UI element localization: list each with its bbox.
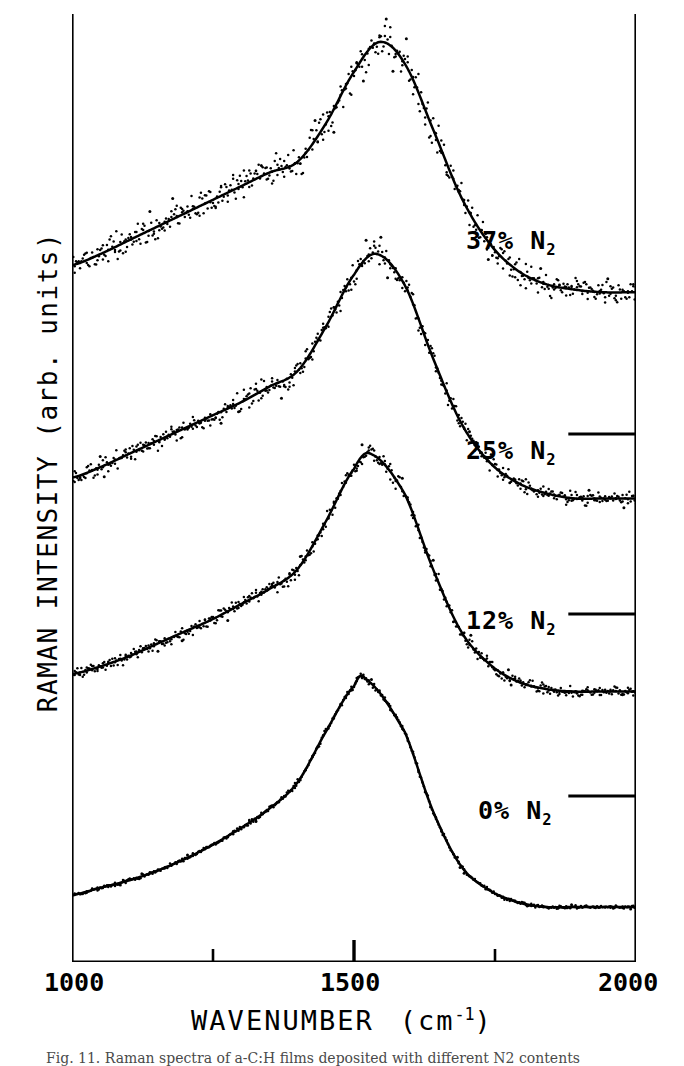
curve-label-gap <box>510 796 526 825</box>
curve-label-subscript: 2 <box>546 241 556 259</box>
curve-label-subscript: 2 <box>546 451 556 469</box>
fitted-curve <box>72 676 636 908</box>
curve-label-12: 12% N2 <box>466 606 557 639</box>
spectrum-trace <box>72 443 636 698</box>
data-points <box>72 18 636 304</box>
curve-label-species: N <box>530 436 546 465</box>
x-tick-label-1500: 1500 <box>320 968 380 997</box>
spectrum-trace <box>72 18 636 304</box>
x-axis-unit-open: (cm <box>400 1005 455 1036</box>
x-axis-unit-close: ) <box>475 1005 493 1036</box>
spectrum-trace <box>72 673 636 911</box>
curve-label-gap <box>514 226 530 255</box>
data-points <box>72 443 636 698</box>
x-tick-label-1000: 1000 <box>44 968 104 997</box>
curve-label-subscript: 2 <box>542 811 552 829</box>
curve-label-0: 0% N2 <box>478 796 553 829</box>
x-axis-title-main: WAVENUMBER <box>191 1005 374 1036</box>
raman-spectra-figure: RAMAN INTENSITY (arb. units) 1000 1500 2… <box>0 0 684 1066</box>
x-axis-unit-exponent: -1 <box>454 1004 474 1024</box>
curve-label-percent: 37% <box>466 226 514 255</box>
curve-label-subscript: 2 <box>546 621 556 639</box>
curve-label-25: 25% N2 <box>466 436 557 469</box>
curve-label-species: N <box>530 226 546 255</box>
baseline-markers <box>568 434 636 796</box>
curve-label-species: N <box>530 606 546 635</box>
x-axis-title: WAVENUMBER(cm-1) <box>0 1004 684 1036</box>
curve-label-species: N <box>526 796 542 825</box>
x-axis-ticks <box>213 940 495 962</box>
fitted-curve <box>72 453 636 692</box>
curve-label-37: 37% N2 <box>466 226 557 259</box>
data-points <box>72 673 636 911</box>
curve-label-percent: 25% <box>466 436 514 465</box>
curve-label-gap <box>514 436 530 465</box>
figure-caption: Fig. 11. Raman spectra of a-C:H films de… <box>46 1050 646 1066</box>
x-tick-label-2000: 2000 <box>598 968 658 997</box>
curve-label-percent: 0% <box>478 796 510 825</box>
y-axis-title: RAMAN INTENSITY (arb. units) <box>28 162 68 782</box>
curve-label-gap <box>514 606 530 635</box>
curve-label-percent: 12% <box>466 606 514 635</box>
